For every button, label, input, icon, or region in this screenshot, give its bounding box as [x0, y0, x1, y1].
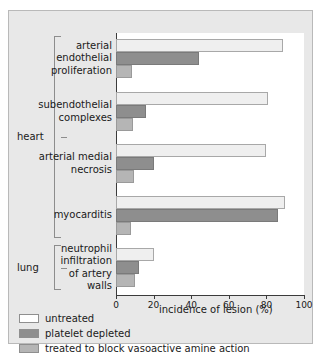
bar [116, 170, 134, 183]
bar [116, 274, 135, 287]
legend-swatch [19, 314, 39, 323]
legend-item: treated to block vasoactive amine action [19, 341, 309, 356]
chart-panel: heartlung arterial endothelial prolifera… [8, 10, 313, 344]
bar [116, 196, 285, 209]
legend-swatch [19, 329, 39, 338]
category-label: arterial medial necrosis [39, 151, 112, 176]
x-tick [116, 295, 117, 299]
x-tick-label: 20 [148, 300, 159, 310]
x-tick-label: 0 [113, 300, 119, 310]
plot-area: 020406080100 [116, 33, 312, 299]
legend-label: untreated [45, 313, 94, 324]
legend-swatch [19, 344, 39, 353]
bar [116, 144, 266, 157]
legend-label: platelet depleted [45, 328, 131, 339]
bar [116, 65, 132, 78]
bar [116, 261, 139, 274]
legend-item: untreated [19, 311, 309, 326]
x-tick [191, 295, 192, 299]
legend-label: treated to block vasoactive amine action [45, 343, 250, 354]
category-label: myocarditis [54, 209, 112, 222]
bar [116, 92, 268, 105]
x-tick [154, 295, 155, 299]
bar [116, 209, 278, 222]
bar [116, 248, 154, 261]
bar [116, 52, 199, 65]
category-label: arterial endothelial proliferation [51, 40, 112, 78]
x-tick [266, 295, 267, 299]
category-label: subendothelial complexes [38, 99, 112, 124]
x-tick [304, 295, 305, 299]
bar [116, 222, 131, 235]
bar [116, 118, 133, 131]
category-label: neutrophil infiltration of artery walls [60, 243, 112, 293]
legend-item: platelet depleted [19, 326, 309, 341]
x-tick-label: 100 [295, 300, 312, 310]
chart-legend: untreatedplatelet depletedtreated to blo… [19, 311, 309, 356]
category-labels: arterial endothelial proliferationsubend… [9, 33, 112, 299]
x-axis-line [116, 295, 305, 296]
bar [116, 39, 283, 52]
bar [116, 157, 154, 170]
x-tick [229, 295, 230, 299]
bar [116, 105, 146, 118]
